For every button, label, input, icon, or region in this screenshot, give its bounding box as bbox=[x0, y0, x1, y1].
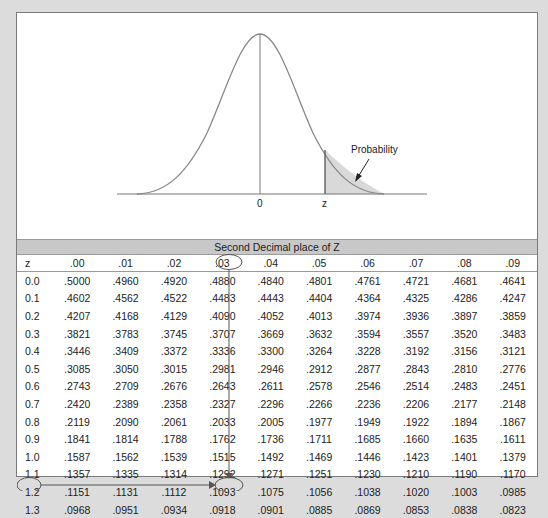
z-row-label: 0.1 bbox=[17, 290, 53, 308]
probability-cell: .3336 bbox=[198, 342, 246, 360]
table-body: 0.0.5000.4960.4920.4880.4840.4801.4761.4… bbox=[17, 272, 537, 518]
probability-cell: .3228 bbox=[343, 342, 391, 360]
probability-cell: .4681 bbox=[440, 272, 488, 290]
probability-cell: .1736 bbox=[247, 430, 295, 448]
probability-cell: .4207 bbox=[53, 307, 101, 325]
probability-cell: .2033 bbox=[198, 413, 246, 431]
probability-cell: .4443 bbox=[247, 290, 295, 308]
probability-cell: .1093 bbox=[198, 483, 246, 501]
probability-cell: .0918 bbox=[198, 501, 246, 518]
probability-cell: .1379 bbox=[489, 448, 537, 466]
z-row-label: 0.6 bbox=[17, 378, 53, 396]
probability-cell: .1977 bbox=[295, 413, 343, 431]
probability-cell: .2061 bbox=[150, 413, 198, 431]
column-header: .02 bbox=[150, 255, 198, 272]
z-row-label: 0.0 bbox=[17, 272, 53, 290]
probability-cell: .2810 bbox=[440, 360, 488, 378]
probability-cell: .0853 bbox=[392, 501, 440, 518]
column-header: .04 bbox=[247, 255, 295, 272]
probability-cell: .2546 bbox=[343, 378, 391, 396]
column-header: .05 bbox=[295, 255, 343, 272]
probability-cell: .0885 bbox=[295, 501, 343, 518]
table-row: 1.3.0968.0951.0934.0918.0901.0885.0869.0… bbox=[17, 501, 537, 518]
probability-cell: .2483 bbox=[440, 378, 488, 396]
table-row: 0.0.5000.4960.4920.4880.4840.4801.4761.4… bbox=[17, 272, 537, 290]
probability-cell: .4562 bbox=[101, 290, 149, 308]
table-row: 0.8.2119.2090.2061.2033.2005.1977.1949.1… bbox=[17, 413, 537, 431]
column-header: .00 bbox=[53, 255, 101, 272]
probability-cell: .0968 bbox=[53, 501, 101, 518]
probability-cell: .3015 bbox=[150, 360, 198, 378]
probability-cell: .4286 bbox=[440, 290, 488, 308]
column-header: .07 bbox=[392, 255, 440, 272]
probability-cell: .2358 bbox=[150, 395, 198, 413]
probability-cell: .4602 bbox=[53, 290, 101, 308]
probability-cell: .3821 bbox=[53, 325, 101, 343]
probability-cell: .2709 bbox=[101, 378, 149, 396]
probability-cell: .2676 bbox=[150, 378, 198, 396]
probability-cell: .1492 bbox=[247, 448, 295, 466]
probability-cell: .2912 bbox=[295, 360, 343, 378]
table-row: 1.0.1587.1562.1539.1515.1492.1469.1446.1… bbox=[17, 448, 537, 466]
probability-cell: .4013 bbox=[295, 307, 343, 325]
probability-cell: .0934 bbox=[150, 501, 198, 518]
probability-label: Probability bbox=[351, 144, 398, 155]
column-header-row: z .00 .01 .02 .03 .04 .05 .06 .07 .08 .0… bbox=[17, 255, 537, 272]
probability-cell: .1539 bbox=[150, 448, 198, 466]
probability-cell: .5000 bbox=[53, 272, 101, 290]
column-header: .08 bbox=[440, 255, 488, 272]
probability-cell: .1170 bbox=[489, 466, 537, 484]
probability-cell: .3264 bbox=[295, 342, 343, 360]
probability-cell: .3372 bbox=[150, 342, 198, 360]
z-row-label: 0.7 bbox=[17, 395, 53, 413]
probability-cell: .4960 bbox=[101, 272, 149, 290]
probability-cell: .2389 bbox=[101, 395, 149, 413]
probability-cell: .4920 bbox=[150, 272, 198, 290]
probability-cell: .3520 bbox=[440, 325, 488, 343]
probability-cell: .1469 bbox=[295, 448, 343, 466]
probability-cell: .3300 bbox=[247, 342, 295, 360]
probability-cell: .2005 bbox=[247, 413, 295, 431]
probability-cell: .1112 bbox=[150, 483, 198, 501]
probability-cell: .1423 bbox=[392, 448, 440, 466]
probability-cell: .1635 bbox=[440, 430, 488, 448]
probability-cell: .1562 bbox=[101, 448, 149, 466]
table-row: 0.5.3085.3050.3015.2981.2946.2912.2877.2… bbox=[17, 360, 537, 378]
probability-cell: .1210 bbox=[392, 466, 440, 484]
z-row-label: 0.9 bbox=[17, 430, 53, 448]
probability-cell: .3783 bbox=[101, 325, 149, 343]
probability-cell: .1314 bbox=[150, 466, 198, 484]
z-row-label: 1.2 bbox=[17, 483, 53, 501]
probability-cell: .1271 bbox=[247, 466, 295, 484]
table-row: 1.2.1151.1131.1112.1093.1075.1056.1038.1… bbox=[17, 483, 537, 501]
probability-cell: .1894 bbox=[440, 413, 488, 431]
bell-curve-graphic bbox=[17, 13, 539, 239]
probability-cell: .3936 bbox=[392, 307, 440, 325]
table-row: 0.9.1841.1814.1788.1762.1736.1711.1685.1… bbox=[17, 430, 537, 448]
probability-cell: .2236 bbox=[343, 395, 391, 413]
normal-curve-plot: 0 z Probability bbox=[17, 13, 539, 239]
table-row: 1.1.1357.1335.1314.1292.1271.1251.1230.1… bbox=[17, 466, 537, 484]
probability-cell: .2177 bbox=[440, 395, 488, 413]
probability-cell: .2266 bbox=[295, 395, 343, 413]
probability-cell: .3557 bbox=[392, 325, 440, 343]
probability-cell: .4880 bbox=[198, 272, 246, 290]
probability-cell: .4364 bbox=[343, 290, 391, 308]
probability-cell: .3594 bbox=[343, 325, 391, 343]
probability-cell: .1841 bbox=[53, 430, 101, 448]
probability-cell: .1685 bbox=[343, 430, 391, 448]
probability-cell: .1020 bbox=[392, 483, 440, 501]
probability-cell: .1151 bbox=[53, 483, 101, 501]
probability-cell: .2743 bbox=[53, 378, 101, 396]
probability-cell: .2611 bbox=[247, 378, 295, 396]
probability-cell: .4522 bbox=[150, 290, 198, 308]
probability-cell: .1251 bbox=[295, 466, 343, 484]
probability-cell: .3745 bbox=[150, 325, 198, 343]
probability-cell: .1230 bbox=[343, 466, 391, 484]
probability-cell: .2877 bbox=[343, 360, 391, 378]
probability-cell: .1660 bbox=[392, 430, 440, 448]
column-header: .09 bbox=[489, 255, 537, 272]
probability-cell: .1335 bbox=[101, 466, 149, 484]
probability-cell: .2090 bbox=[101, 413, 149, 431]
column-header: .06 bbox=[343, 255, 391, 272]
